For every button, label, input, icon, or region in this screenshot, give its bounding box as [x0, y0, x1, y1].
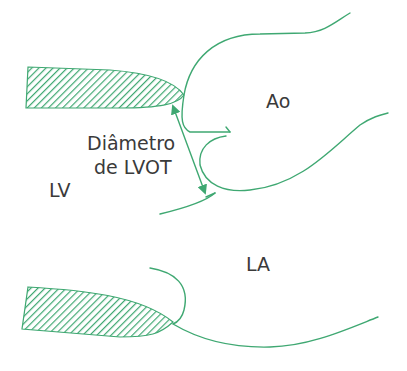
- left-atrium-wall: [150, 268, 378, 347]
- septum-hatched: [26, 67, 184, 108]
- posterior-hatched: [22, 287, 173, 337]
- lvot-diameter-arrow: [174, 109, 204, 190]
- label-lvot-diameter-line2: de LVOT: [94, 156, 172, 178]
- label-left-atrium: LA: [246, 253, 270, 275]
- aortic-wall-lower: [200, 113, 388, 191]
- aortic-leaflet: [226, 127, 230, 132]
- label-lvot-diameter-line1: Diâmetro: [87, 132, 175, 154]
- label-left-ventricle: LV: [49, 179, 71, 201]
- label-aorta: Ao: [266, 90, 290, 112]
- aortic-wall-upper: [182, 13, 350, 132]
- lvot-diagram: Ao Diâmetro de LVOT LV LA: [0, 0, 407, 371]
